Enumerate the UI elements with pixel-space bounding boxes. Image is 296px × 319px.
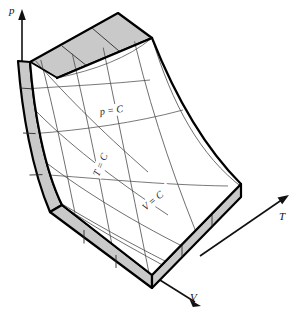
- pvt-surface-svg: p T V: [0, 0, 296, 319]
- p-axis-arrowhead: [18, 9, 26, 20]
- T-axis-arrowhead: [278, 195, 290, 204]
- T-axis-label: T: [279, 210, 286, 222]
- p-axis-label: p: [8, 4, 15, 16]
- V-axis-label: V: [190, 291, 198, 303]
- left-face-gridline: [23, 133, 36, 134]
- pvt-surface-figure: p T V: [0, 0, 296, 319]
